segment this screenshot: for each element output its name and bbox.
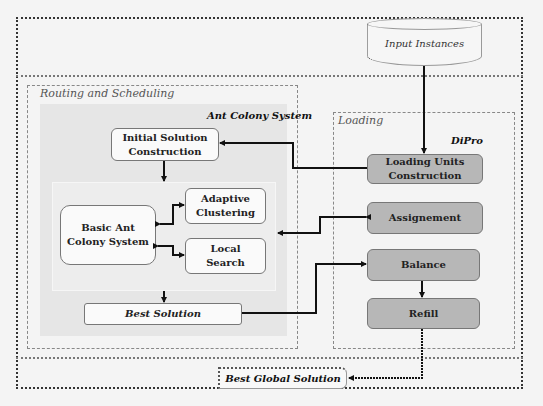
- arrow-acs-adaptive-clustering: [160, 205, 184, 224]
- arrow-loading-units-to-initial-solution: [220, 143, 367, 168]
- arrow-acs-local-search: [158, 246, 184, 255]
- arrow-refill-to-best-global: [349, 329, 422, 378]
- arrow-assignement-acs: [278, 217, 366, 233]
- connector-layer: [0, 0, 543, 406]
- arrow-best-solution-to-balance: [242, 264, 366, 313]
